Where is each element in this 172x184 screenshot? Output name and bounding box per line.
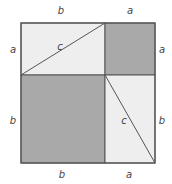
label-top-right: a <box>127 5 133 16</box>
label-bottom-right: a <box>126 169 132 180</box>
label-top-left: b <box>58 5 64 16</box>
label-left-top: a <box>10 44 16 55</box>
bottom-left-square <box>21 75 105 163</box>
label-hypotenuse-top: c <box>57 41 63 52</box>
label-bottom-left: b <box>59 169 65 180</box>
label-right-bottom: b <box>159 115 165 126</box>
label-right-top: a <box>159 44 165 55</box>
diagram-canvas: b a a b a b b a c c <box>0 0 172 184</box>
label-left-bottom: b <box>10 115 16 126</box>
top-right-square <box>105 23 155 75</box>
label-hypotenuse-bottom: c <box>121 115 127 126</box>
